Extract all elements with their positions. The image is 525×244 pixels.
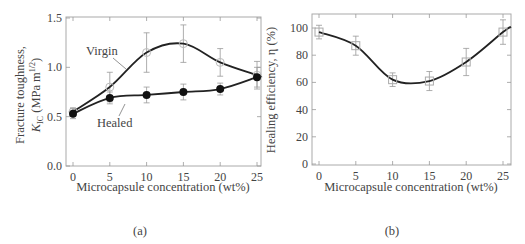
y-tick-label: 100 [290, 21, 308, 35]
data-point [179, 88, 187, 96]
figure: 0.00.51.01.5 0510152025 Virgin Healed Mi… [0, 0, 525, 244]
y-axis-label-a: Fracture toughness, KIC (MPa m1/2) [13, 46, 45, 144]
leader-healed [119, 104, 125, 116]
data-point [143, 91, 151, 99]
x-axis-label-a: Microcapsule concentration (wt%) [76, 180, 250, 194]
x-tick-label: 25 [251, 170, 263, 184]
leader-virgin [113, 58, 126, 69]
y-tick-label: 1.5 [47, 11, 62, 25]
svg-text:Fracture toughness,: Fracture toughness, [13, 46, 27, 144]
x-ticks-a: 0510152025 [70, 17, 263, 184]
series-b [315, 20, 511, 91]
y-tick-label: 40 [296, 103, 308, 117]
y-tick-label: 60 [296, 75, 308, 89]
series-healing-efficiency [315, 20, 511, 91]
plot-frame-a [66, 17, 261, 166]
panel-label-a: (a) [133, 224, 147, 238]
y-tick-label: 0 [302, 157, 308, 171]
annotation-virgin: Virgin [86, 44, 118, 58]
panel-label-b: (b) [385, 224, 400, 238]
series-curve [73, 77, 257, 114]
y-ticks-b: 020406080100 [290, 21, 511, 171]
x-tick-label: 0 [316, 169, 322, 183]
plot-frame-b [312, 14, 511, 165]
y-ticks-a: 0.00.51.01.5 [47, 11, 261, 173]
x-tick-label: 0 [70, 170, 76, 184]
series-curve [319, 27, 511, 84]
y-tick-label: 20 [296, 130, 308, 144]
data-point [69, 110, 77, 118]
y-axis-label-b: Healing efficiency, η (%) [264, 27, 278, 153]
series-healed [69, 67, 261, 118]
annotation-healed: Healed [97, 116, 133, 130]
x-axis-label-b: Microcapsule concentration (wt%) [324, 180, 498, 194]
data-point [106, 94, 114, 102]
chart-b: 020406080100 0510152025 Microcapsule con… [264, 14, 511, 238]
data-point [216, 85, 224, 93]
y-tick-label: 0.5 [47, 110, 62, 124]
y-tick-label: 80 [296, 48, 308, 62]
chart-a: 0.00.51.01.5 0510152025 Virgin Healed Mi… [13, 11, 263, 238]
y-tick-label: 1.0 [47, 60, 62, 74]
y-tick-label: 0.0 [47, 159, 62, 173]
x-tick-label: 25 [497, 169, 509, 183]
series-a [69, 25, 261, 119]
data-point [253, 73, 261, 81]
svg-text:KIC (MPa m1/2): KIC (MPa m1/2) [28, 58, 45, 134]
